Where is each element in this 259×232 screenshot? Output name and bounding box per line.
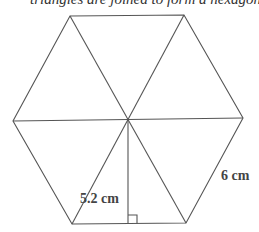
right-angle-marker xyxy=(128,215,137,224)
hexagon-diagram xyxy=(0,0,259,232)
side-length-label: 6 cm xyxy=(221,168,249,184)
height-label: 5.2 cm xyxy=(80,191,119,207)
